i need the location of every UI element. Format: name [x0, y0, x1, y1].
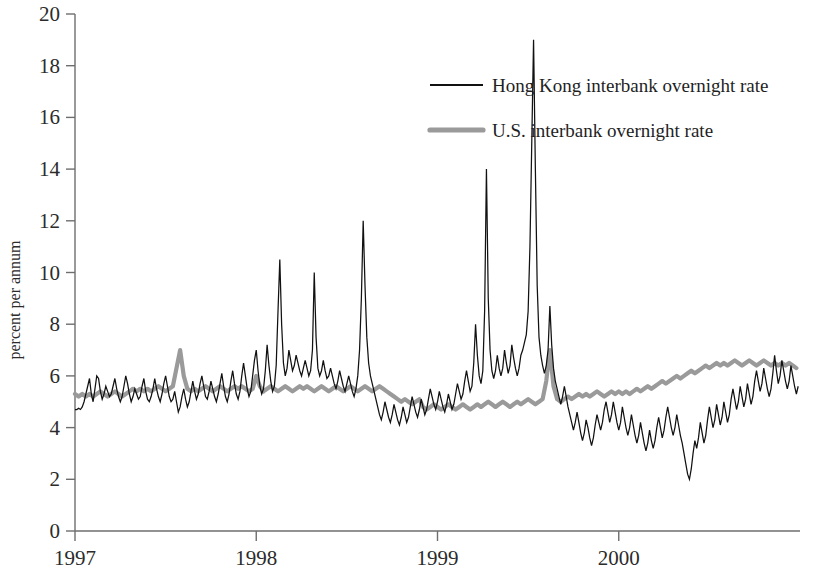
x-tick-label: 1997 [54, 546, 96, 570]
x-tick-label: 2000 [598, 546, 640, 570]
x-tick-label: 1999 [417, 546, 459, 570]
y-tick-label: 6 [50, 364, 61, 388]
y-tick-label: 2 [50, 467, 61, 491]
legend-label-united-states: U.S. interbank overnight rate [492, 120, 713, 141]
x-axis-tick-labels: 1997199819992000 [54, 546, 640, 570]
y-tick-label: 4 [50, 416, 61, 440]
y-tick-label: 16 [39, 105, 60, 129]
series-line-hk-interbank [75, 40, 798, 479]
y-tick-label: 20 [39, 2, 60, 26]
y-tick-label: 10 [39, 261, 60, 285]
y-axis-title: percent per annum [6, 240, 24, 360]
y-tick-label: 14 [39, 157, 61, 181]
legend-label-hong-kong: Hong Kong interbank overnight rate [492, 75, 768, 96]
y-tick-label: 0 [50, 519, 61, 543]
chart-figure: 02468101214161820 1997199819992000 perce… [0, 0, 815, 576]
line-chart-canvas: 02468101214161820 1997199819992000 perce… [0, 0, 815, 576]
x-axis-tick-marks [75, 531, 619, 541]
y-tick-label: 8 [50, 312, 61, 336]
y-tick-label: 12 [39, 209, 60, 233]
x-tick-label: 1998 [235, 546, 277, 570]
series-line-us-interbank [75, 350, 796, 409]
chart-legend: Hong Kong interbank overnight rate U.S. … [430, 75, 768, 141]
y-axis-tick-marks [66, 14, 75, 531]
y-axis-tick-labels: 02468101214161820 [39, 2, 61, 543]
y-tick-label: 18 [39, 54, 60, 78]
